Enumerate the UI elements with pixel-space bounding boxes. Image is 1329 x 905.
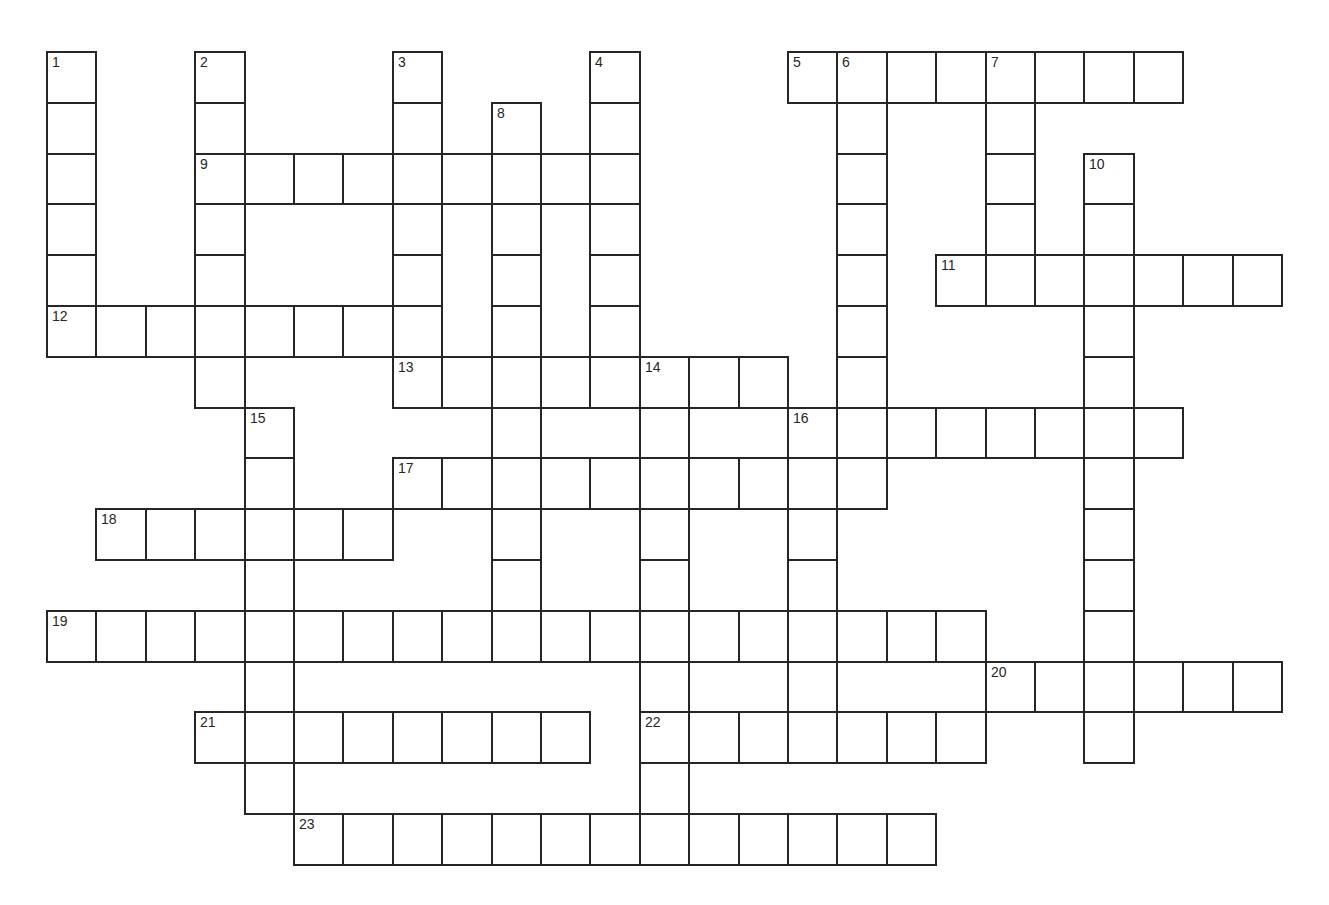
crossword-cell[interactable] — [491, 356, 542, 409]
crossword-cell[interactable] — [1083, 305, 1135, 358]
crossword-cell[interactable] — [441, 153, 493, 205]
crossword-cell[interactable] — [441, 711, 493, 764]
crossword-cell[interactable] — [688, 813, 740, 866]
crossword-cell[interactable] — [738, 711, 789, 764]
crossword-cell[interactable] — [491, 407, 542, 459]
crossword-cell[interactable] — [639, 762, 690, 815]
crossword-cell[interactable] — [46, 102, 97, 155]
crossword-cell[interactable]: 11 — [935, 254, 987, 307]
crossword-cell[interactable] — [1182, 254, 1234, 307]
crossword-cell[interactable] — [491, 153, 542, 205]
crossword-cell[interactable] — [738, 610, 789, 663]
crossword-cell[interactable]: 10 — [1083, 153, 1135, 205]
crossword-cell[interactable] — [491, 203, 542, 256]
crossword-cell[interactable] — [935, 407, 987, 459]
crossword-cell[interactable] — [194, 356, 246, 409]
crossword-cell[interactable] — [194, 102, 246, 155]
crossword-cell[interactable] — [293, 711, 344, 764]
crossword-cell[interactable] — [342, 711, 394, 764]
crossword-cell[interactable] — [836, 254, 888, 307]
crossword-cell[interactable]: 20 — [985, 661, 1036, 713]
crossword-cell[interactable] — [1232, 254, 1283, 307]
crossword-cell[interactable] — [589, 356, 641, 409]
crossword-cell[interactable] — [540, 813, 591, 866]
crossword-cell[interactable] — [244, 305, 295, 358]
crossword-cell[interactable] — [1083, 661, 1135, 713]
crossword-cell[interactable] — [491, 610, 542, 663]
crossword-cell[interactable] — [639, 508, 690, 561]
crossword-cell[interactable] — [293, 305, 344, 358]
crossword-cell[interactable] — [836, 407, 888, 459]
crossword-cell[interactable] — [540, 610, 591, 663]
crossword-cell[interactable] — [836, 153, 888, 205]
crossword-cell[interactable] — [1133, 254, 1184, 307]
crossword-cell[interactable] — [1083, 508, 1135, 561]
crossword-cell[interactable] — [1083, 559, 1135, 612]
crossword-cell[interactable]: 21 — [194, 711, 246, 764]
crossword-cell[interactable] — [589, 305, 641, 358]
crossword-cell[interactable] — [589, 457, 641, 510]
crossword-cell[interactable] — [688, 711, 740, 764]
crossword-cell[interactable] — [787, 457, 838, 510]
crossword-cell[interactable] — [985, 254, 1036, 307]
crossword-cell[interactable] — [342, 153, 394, 205]
crossword-cell[interactable] — [1232, 661, 1283, 713]
crossword-cell[interactable] — [95, 305, 147, 358]
crossword-cell[interactable] — [1083, 610, 1135, 663]
crossword-cell[interactable] — [342, 813, 394, 866]
crossword-cell[interactable] — [1034, 661, 1085, 713]
crossword-cell[interactable] — [145, 305, 196, 358]
crossword-cell[interactable] — [392, 254, 443, 307]
crossword-cell[interactable] — [1083, 51, 1135, 104]
crossword-cell[interactable] — [886, 610, 937, 663]
crossword-cell[interactable] — [1034, 407, 1085, 459]
crossword-cell[interactable]: 13 — [392, 356, 443, 409]
crossword-cell[interactable] — [688, 610, 740, 663]
crossword-cell[interactable]: 14 — [639, 356, 690, 409]
crossword-cell[interactable] — [392, 305, 443, 358]
crossword-cell[interactable] — [639, 813, 690, 866]
crossword-cell[interactable] — [589, 254, 641, 307]
crossword-cell[interactable] — [244, 153, 295, 205]
crossword-cell[interactable] — [392, 102, 443, 155]
crossword-cell[interactable] — [985, 407, 1036, 459]
crossword-cell[interactable] — [46, 153, 97, 205]
crossword-cell[interactable] — [145, 508, 196, 561]
crossword-cell[interactable]: 3 — [392, 51, 443, 104]
crossword-cell[interactable] — [886, 813, 937, 866]
crossword-cell[interactable] — [491, 305, 542, 358]
crossword-cell[interactable] — [441, 813, 493, 866]
crossword-cell[interactable] — [787, 813, 838, 866]
crossword-cell[interactable] — [1083, 356, 1135, 409]
crossword-cell[interactable] — [46, 254, 97, 307]
crossword-cell[interactable]: 18 — [95, 508, 147, 561]
crossword-cell[interactable] — [392, 813, 443, 866]
crossword-cell[interactable] — [688, 356, 740, 409]
crossword-cell[interactable] — [589, 102, 641, 155]
crossword-cell[interactable] — [491, 508, 542, 561]
crossword-cell[interactable] — [244, 508, 295, 561]
crossword-cell[interactable] — [342, 305, 394, 358]
crossword-cell[interactable]: 9 — [194, 153, 246, 205]
crossword-cell[interactable] — [1133, 661, 1184, 713]
crossword-cell[interactable] — [1083, 254, 1135, 307]
crossword-cell[interactable]: 8 — [491, 102, 542, 155]
crossword-cell[interactable]: 15 — [244, 407, 295, 459]
crossword-cell[interactable]: 5 — [787, 51, 838, 104]
crossword-cell[interactable] — [293, 153, 344, 205]
crossword-cell[interactable] — [441, 457, 493, 510]
crossword-cell[interactable] — [836, 102, 888, 155]
crossword-cell[interactable] — [491, 254, 542, 307]
crossword-cell[interactable] — [491, 457, 542, 510]
crossword-cell[interactable] — [738, 356, 789, 409]
crossword-cell[interactable] — [787, 610, 838, 663]
crossword-cell[interactable] — [194, 203, 246, 256]
crossword-cell[interactable] — [392, 203, 443, 256]
crossword-cell[interactable] — [787, 508, 838, 561]
crossword-cell[interactable] — [194, 254, 246, 307]
crossword-cell[interactable] — [589, 203, 641, 256]
crossword-cell[interactable]: 4 — [589, 51, 641, 104]
crossword-cell[interactable] — [589, 813, 641, 866]
crossword-cell[interactable] — [491, 813, 542, 866]
crossword-cell[interactable]: 22 — [639, 711, 690, 764]
